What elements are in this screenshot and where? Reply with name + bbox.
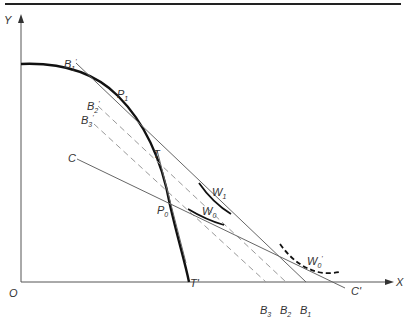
c-line	[77, 159, 345, 288]
label-c-prime: C'	[351, 285, 362, 297]
label-w0-prime: W0'	[307, 255, 323, 269]
budget-line-b2	[98, 106, 286, 282]
budget-line-b3	[94, 124, 266, 282]
diagram-canvas: Y X O B1' P1 B2' B3' C T P0 W1 W0 W0' T'…	[0, 0, 406, 322]
label-b1: B1	[300, 304, 311, 318]
label-b2: B2	[280, 304, 291, 318]
label-c: C	[68, 152, 76, 164]
label-t-prime: T'	[190, 277, 200, 289]
y-axis-label: Y	[4, 14, 12, 26]
label-p1: P1	[117, 88, 128, 102]
origin-label: O	[9, 287, 18, 299]
label-b3-prime: B3'	[81, 114, 94, 128]
label-w0: W0	[202, 205, 216, 219]
x-axis-label: X	[395, 276, 404, 288]
y-axis-arrow-icon	[18, 14, 24, 23]
label-b2-prime: B2'	[87, 100, 100, 114]
label-t: T	[153, 148, 161, 160]
x-axis-arrow-icon	[385, 279, 394, 285]
label-b3: B3	[260, 304, 271, 318]
budget-line-b1	[76, 63, 306, 282]
label-w1: W1	[212, 186, 226, 200]
label-p0: P0	[157, 204, 168, 218]
